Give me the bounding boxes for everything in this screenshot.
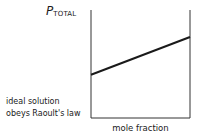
- y-axis-subscript: TOTAL: [53, 10, 76, 18]
- annotation-line-2: obeys Raoult's law: [6, 108, 81, 120]
- x-axis-label: mole fraction: [91, 123, 190, 133]
- ptotal-line: [91, 37, 190, 75]
- ideal-solution-annotation: ideal solution obeys Raoult's law: [6, 96, 81, 120]
- annotation-line-1: ideal solution: [6, 96, 81, 108]
- y-axis-label: PTOTAL: [46, 5, 76, 19]
